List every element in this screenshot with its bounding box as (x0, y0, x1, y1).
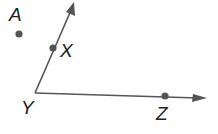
arrowhead-icon (192, 94, 207, 102)
point-x (49, 44, 56, 51)
label-x: X (60, 41, 73, 60)
label-a: A (9, 5, 22, 24)
point-z (161, 92, 168, 99)
label-z: Z (156, 104, 168, 123)
angle-diagram: A X Y Z (0, 0, 218, 134)
point-a (15, 30, 22, 37)
label-y: Y (21, 98, 34, 117)
arrowhead-icon (66, 2, 75, 16)
ray-yz (35, 93, 207, 102)
